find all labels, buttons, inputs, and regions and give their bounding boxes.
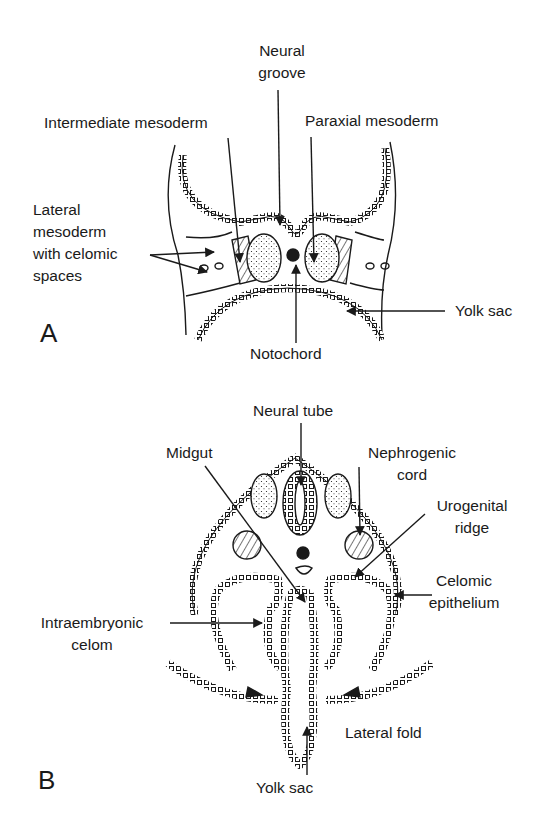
label-lateral-mesoderm: Lateral mesoderm with celomic spaces xyxy=(33,199,117,287)
label-yolk-sac-b: Yolk sac xyxy=(256,777,313,799)
panel-letter-a: A xyxy=(40,318,57,349)
embryo-cross-section-figure: Neural groove Intermediate mesoderm Para… xyxy=(0,0,549,819)
label-intermediate-mesoderm: Intermediate mesoderm xyxy=(44,112,208,134)
label-urogenital-ridge: Urogenital ridge xyxy=(425,495,519,539)
label-nephrogenic-cord: Nephrogenic cord xyxy=(352,442,472,486)
label-neural-groove: Neural groove xyxy=(252,40,312,84)
panel-b-drawing xyxy=(168,458,432,765)
label-neural-tube: Neural tube xyxy=(253,400,333,422)
label-paraxial-mesoderm: Paraxial mesoderm xyxy=(305,110,439,132)
label-celomic-epithelium: Celomic epithelium xyxy=(418,570,510,614)
label-midgut: Midgut xyxy=(166,442,213,464)
label-notochord: Notochord xyxy=(250,343,322,365)
label-intraembryonic-celom: Intraembryonic celom xyxy=(24,612,160,656)
label-yolk-sac-a: Yolk sac xyxy=(455,300,512,322)
panel-letter-b: B xyxy=(38,765,55,796)
label-lateral-fold: Lateral fold xyxy=(345,722,422,744)
